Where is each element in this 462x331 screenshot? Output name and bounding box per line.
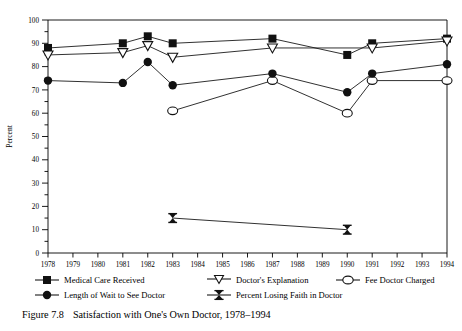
y-axis-tick-label: 10 xyxy=(32,226,40,234)
x-axis-tick-label: 1990 xyxy=(340,261,355,269)
x-axis-tick-label: 1991 xyxy=(365,261,380,269)
y-axis-title: Percent xyxy=(5,124,14,147)
x-axis-tick-label: 1992 xyxy=(390,261,405,269)
x-axis-tick-label: 1982 xyxy=(141,261,156,269)
x-axis-tick-label: 1986 xyxy=(240,261,255,269)
x-axis-tick-label: 1981 xyxy=(116,261,131,269)
y-axis-tick-label: 40 xyxy=(32,156,40,164)
x-axis-tick-label: 1979 xyxy=(66,261,81,269)
chart-legend: Medical Care Received Doctor's Explanati… xyxy=(34,273,454,303)
figure-container: 0102030405060708090100197819791980198119… xyxy=(0,0,462,331)
series-0 xyxy=(44,32,451,59)
y-axis-tick-label: 100 xyxy=(28,17,39,25)
x-axis-tick-label: 1984 xyxy=(190,261,205,269)
y-axis-tick-label: 60 xyxy=(32,110,40,118)
filled-circle-icon xyxy=(34,288,60,302)
line-chart-svg: 0102030405060708090100197819791980198119… xyxy=(0,0,462,270)
legend-label: Doctor's Explanation xyxy=(232,275,308,285)
figure-number: Figure 7.8 xyxy=(22,309,64,320)
y-axis-tick-label: 70 xyxy=(32,87,40,95)
figure-caption-text: Satisfaction with One's Own Doctor, 1978… xyxy=(73,309,271,320)
x-axis-tick-label: 1994 xyxy=(440,261,455,269)
x-axis-tick-label: 1993 xyxy=(415,261,430,269)
legend-item-medical-care-received: Medical Care Received xyxy=(34,273,145,287)
filled-square-icon xyxy=(34,273,60,287)
filled-bowtie-icon xyxy=(206,288,232,302)
legend-label: Percent Losing Faith in Doctor xyxy=(232,290,342,300)
legend-item-doctors-explanation: Doctor's Explanation xyxy=(206,273,308,287)
series-4 xyxy=(168,214,351,234)
x-axis-tick-label: 1988 xyxy=(290,261,305,269)
figure-caption: Figure 7.8Satisfaction with One's Own Do… xyxy=(22,309,271,320)
x-axis-tick-label: 1980 xyxy=(91,261,106,269)
x-axis-tick-label: 1978 xyxy=(41,261,56,269)
chart-plot-area: 0102030405060708090100197819791980198119… xyxy=(0,0,462,270)
y-axis-tick-label: 0 xyxy=(35,250,39,258)
legend-label: Length of Wait to See Doctor xyxy=(60,290,165,300)
legend-item-fee-doctor-charged: Fee Doctor Charged xyxy=(335,273,435,287)
legend-row: Length of Wait to See Doctor Percent Los… xyxy=(34,288,454,302)
x-axis-tick-label: 1985 xyxy=(215,261,230,269)
x-axis-tick-label: 1989 xyxy=(315,261,330,269)
legend-label: Fee Doctor Charged xyxy=(361,275,435,285)
legend-label: Medical Care Received xyxy=(60,275,145,285)
y-axis-tick-label: 80 xyxy=(32,63,40,71)
y-axis-tick-label: 90 xyxy=(32,40,40,48)
y-axis-tick-label: 20 xyxy=(32,203,40,211)
series-1 xyxy=(43,37,452,62)
open-triangle-down-icon xyxy=(206,273,232,287)
x-axis-tick-label: 1987 xyxy=(265,261,280,269)
open-circle-icon xyxy=(335,273,361,287)
legend-item-length-of-wait: Length of Wait to See Doctor xyxy=(34,288,165,302)
series-3 xyxy=(44,58,451,97)
legend-row: Medical Care Received Doctor's Explanati… xyxy=(34,273,454,287)
y-axis-tick-label: 50 xyxy=(32,133,40,141)
legend-item-percent-losing-faith: Percent Losing Faith in Doctor xyxy=(206,288,342,302)
y-axis-tick-label: 30 xyxy=(32,180,40,188)
x-axis-tick-label: 1983 xyxy=(166,261,181,269)
